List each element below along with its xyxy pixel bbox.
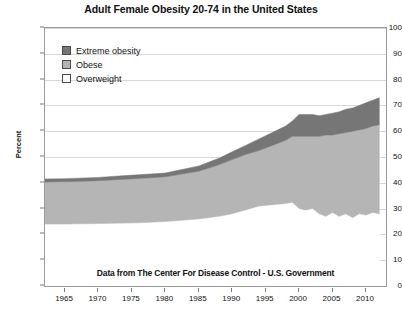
x-tick-mark [97,288,98,292]
chart-container: Adult Female Obesity 20-74 in the United… [0,0,402,323]
x-tick-mark [198,288,199,292]
x-tick-mark [332,288,333,292]
x-tick-mark [131,288,132,292]
x-tick-mark [231,288,232,292]
legend-label-overweight: Overweight [76,74,122,84]
x-tick-mark [64,288,65,292]
x-tick-mark [298,288,299,292]
x-tick-mark [365,288,366,292]
legend-item-overweight: Overweight [62,72,141,85]
chart-legend: Extreme obesity Obese Overweight [62,44,141,86]
y-axis-title: Percent [14,105,23,185]
x-tick-mark [265,288,266,292]
source-annotation: Data from The Center For Disease Control… [44,268,387,278]
chart-title: Adult Female Obesity 20-74 in the United… [0,3,402,15]
legend-item-obese: Obese [62,58,141,71]
legend-swatch-overweight [62,74,71,83]
legend-label-obese: Obese [76,60,103,70]
x-tick-mark [164,288,165,292]
x-tick-label: 2010 [345,294,385,303]
legend-label-extreme-obesity: Extreme obesity [76,46,141,56]
legend-item-extreme-obesity: Extreme obesity [62,44,141,57]
area-series-obese [45,125,379,224]
legend-swatch-extreme-obesity [62,46,71,55]
legend-swatch-obese [62,60,71,69]
